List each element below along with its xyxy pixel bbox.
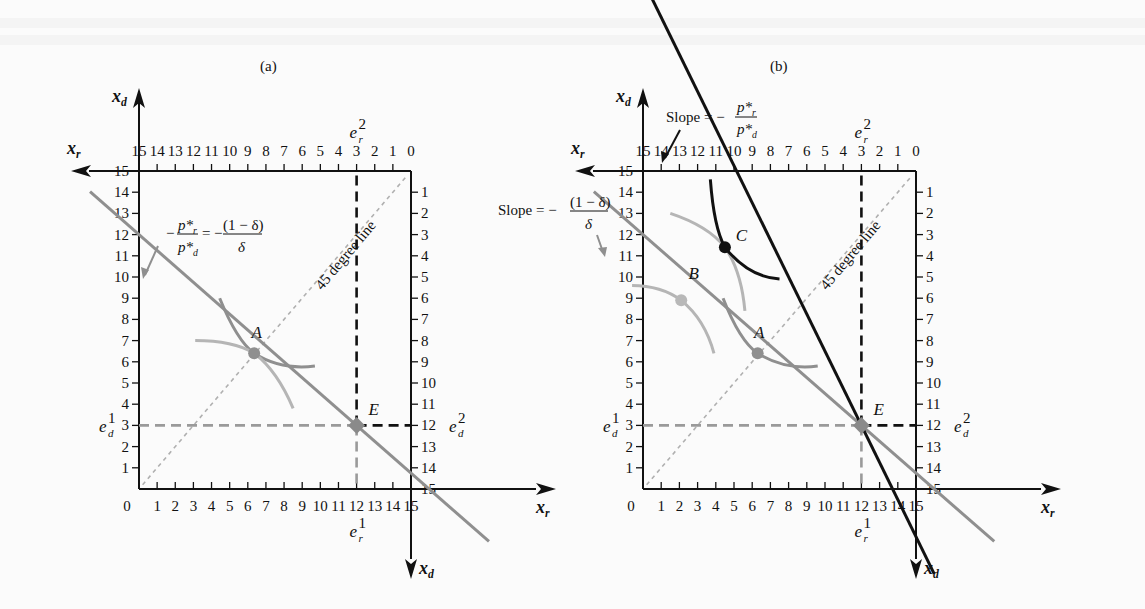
tick-label-right: 1 xyxy=(421,184,429,200)
tick-label-bottom: 15 xyxy=(909,498,924,514)
tick-label-top: 2 xyxy=(371,143,379,159)
tick-label-right: 11 xyxy=(926,396,940,412)
tick-label-top: 0 xyxy=(407,143,415,159)
point-c-label: C xyxy=(736,226,748,245)
tick-label-right: 8 xyxy=(421,333,429,349)
tick-label-bottom: 4 xyxy=(208,498,216,514)
tick-label-left: 14 xyxy=(618,184,634,200)
tick-label-top: 12 xyxy=(690,143,705,159)
endowment-label-er2-base: e xyxy=(854,123,862,142)
point-e-label: E xyxy=(872,400,884,419)
slope-numerator: (1 − δ) xyxy=(570,194,611,211)
tick-label-right: 12 xyxy=(926,417,941,433)
endowment-label-er1-sub: r xyxy=(359,532,364,544)
tick-label-bottom: 4 xyxy=(712,498,720,514)
tick-label-right: 9 xyxy=(926,354,934,370)
tick-label-bottom: 2 xyxy=(172,498,180,514)
tick-label-right: 2 xyxy=(421,205,429,221)
tick-label-right: 3 xyxy=(926,227,934,243)
endowment-label-ed2: e2d xyxy=(449,410,466,439)
endowment-label-ed2: e2d xyxy=(954,410,971,439)
endowment-label-ed1-sub: d xyxy=(612,427,618,439)
tick-label-left: 9 xyxy=(122,290,130,306)
autarky-ratio-denominator: δ xyxy=(238,239,246,255)
tick-label-bottom: 7 xyxy=(262,498,270,514)
panel-b: (b)45 degree linexdxrxrxd012345678910111… xyxy=(498,0,1061,581)
tick-label-left: 4 xyxy=(626,396,634,412)
indifference-curve-consumer1 xyxy=(220,298,315,367)
tick-label-bottom: 1 xyxy=(153,498,161,514)
endowment-label-er2-sub: r xyxy=(359,133,364,145)
tick-label-bottom: 12 xyxy=(349,498,364,514)
endowment-label-ed1-base: e xyxy=(99,417,107,436)
tick-label-top: 11 xyxy=(709,143,723,159)
endowment-label-er1-sup: 1 xyxy=(359,515,367,531)
tick-label-top: 1 xyxy=(894,143,902,159)
panel-label: (b) xyxy=(770,58,788,75)
tick-label-left: 15 xyxy=(618,163,633,179)
tick-label-top: 6 xyxy=(298,143,306,159)
tick-label-bottom: 8 xyxy=(785,498,793,514)
tick-label-right: 8 xyxy=(926,333,934,349)
tick-label-left: 2 xyxy=(626,439,634,455)
tick-label-left: 12 xyxy=(114,227,129,243)
tick-label-bottom: 1 xyxy=(657,498,665,514)
tick-label-left: 12 xyxy=(618,227,633,243)
tick-label-bottom: 3 xyxy=(694,498,702,514)
tick-label-right: 7 xyxy=(421,311,429,327)
tick-label-bottom: 0 xyxy=(627,498,635,514)
tick-label-bottom: 10 xyxy=(313,498,328,514)
tick-label-top: 1 xyxy=(389,143,397,159)
tick-label-left: 6 xyxy=(122,354,130,370)
tick-label-bottom: 0 xyxy=(123,498,131,514)
slope-numerator: p*r xyxy=(736,99,756,118)
tick-label-left: 11 xyxy=(619,248,633,264)
tick-label-top: 10 xyxy=(222,143,237,159)
tick-label-right: 10 xyxy=(926,375,941,391)
tick-label-right: 14 xyxy=(926,460,942,476)
tick-label-top: 8 xyxy=(767,143,775,159)
endowment-label-er1: e1r xyxy=(854,515,871,544)
tick-label-right: 11 xyxy=(421,396,435,412)
price-line-market xyxy=(616,0,935,574)
tick-label-top: 15 xyxy=(636,143,651,159)
tick-label-left: 6 xyxy=(626,354,634,370)
panel-label: (a) xyxy=(260,58,277,75)
tick-label-right: 6 xyxy=(926,290,934,306)
tick-label-top: 15 xyxy=(132,143,147,159)
point-e-label: E xyxy=(368,400,380,419)
tick-label-top: 8 xyxy=(262,143,270,159)
point-a-marker xyxy=(248,347,260,359)
point-a-label: A xyxy=(753,323,765,342)
annotation-arrow-head-icon xyxy=(598,247,607,257)
endowment-label-ed2-sub: d xyxy=(458,427,464,439)
tick-label-left: 7 xyxy=(626,333,634,349)
tick-label-left: 3 xyxy=(122,417,130,433)
tick-label-left: 10 xyxy=(114,269,129,285)
point-b-label: B xyxy=(689,264,700,283)
endowment-label-er1: e1r xyxy=(350,515,367,544)
tick-label-right: 4 xyxy=(926,248,934,264)
tick-label-top: 5 xyxy=(821,143,829,159)
tick-label-right: 14 xyxy=(421,460,437,476)
endowment-label-ed1-base: e xyxy=(603,417,611,436)
endowment-label-ed2-sub: d xyxy=(963,427,969,439)
tick-label-bottom: 14 xyxy=(385,498,401,514)
tick-label-right: 5 xyxy=(421,269,429,285)
arrow-head-icon xyxy=(71,165,91,177)
tick-label-top: 9 xyxy=(244,143,252,159)
endowment-label-ed1: e1d xyxy=(603,410,620,439)
tick-label-right: 2 xyxy=(926,205,934,221)
tick-label-right: 3 xyxy=(421,227,429,243)
tick-label-top: 11 xyxy=(204,143,218,159)
endowment-label-er2: e2r xyxy=(854,116,871,145)
tick-label-top: 5 xyxy=(317,143,325,159)
tick-label-left: 4 xyxy=(122,396,130,412)
tick-label-top: 4 xyxy=(335,143,343,159)
tick-label-bottom: 7 xyxy=(767,498,775,514)
tick-label-bottom: 2 xyxy=(676,498,684,514)
tick-label-right: 13 xyxy=(421,439,436,455)
endowment-label-er2-base: e xyxy=(350,123,358,142)
tick-label-left: 9 xyxy=(626,290,634,306)
point-a-label: A xyxy=(250,323,262,342)
